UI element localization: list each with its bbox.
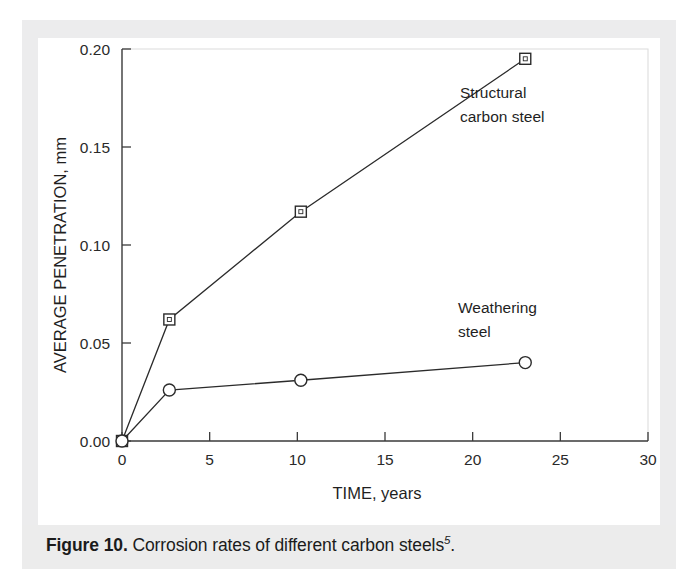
data-point-square: [520, 53, 531, 64]
y-axis-tick-label: 0.10: [80, 237, 111, 254]
x-axis-tick-label: 30: [639, 451, 657, 468]
y-axis-tick-label: 0.15: [80, 139, 110, 156]
data-point-circle: [519, 357, 531, 369]
corrosion-rates-chart: 0.000.050.100.150.20051015202530TIME, ye…: [38, 38, 660, 525]
x-axis-tick-label: 20: [464, 451, 482, 468]
caption-body: Corrosion rates of different carbon stee…: [128, 535, 444, 555]
data-point-square: [164, 314, 175, 325]
x-axis-title: TIME, years: [333, 484, 422, 502]
x-axis-tick-label: 0: [118, 451, 127, 468]
annotation-weathering-steel-line1: Weathering: [458, 299, 537, 316]
annotation-structural-carbon-steel-line2: carbon steel: [460, 108, 544, 125]
x-axis-tick-label: 10: [289, 451, 307, 468]
figure-page: 0.000.050.100.150.20051015202530TIME, ye…: [0, 0, 698, 579]
y-axis-tick-label: 0.05: [80, 335, 110, 352]
data-point-circle: [116, 435, 128, 447]
figure-caption: Figure 10. Corrosion rates of different …: [46, 534, 656, 556]
annotation-weathering-steel-line2: steel: [458, 323, 491, 340]
caption-period: .: [450, 535, 455, 555]
annotation-structural-carbon-steel-line1: Structural: [460, 84, 526, 101]
y-axis-tick-label: 0.20: [80, 41, 111, 58]
y-axis-title: AVERAGE PENETRATION, mm: [51, 137, 69, 373]
x-axis-tick-label: 5: [205, 451, 214, 468]
x-axis-tick-label: 25: [552, 451, 569, 468]
data-point-square: [295, 206, 306, 217]
series-line-weathering-steel: [122, 363, 525, 441]
caption-figure-label: Figure 10.: [46, 535, 128, 555]
x-axis-tick-label: 15: [376, 451, 393, 468]
y-axis-tick-label: 0.00: [80, 433, 111, 450]
data-point-circle: [163, 384, 175, 396]
plot-frame: [122, 49, 648, 441]
data-point-circle: [295, 374, 307, 386]
